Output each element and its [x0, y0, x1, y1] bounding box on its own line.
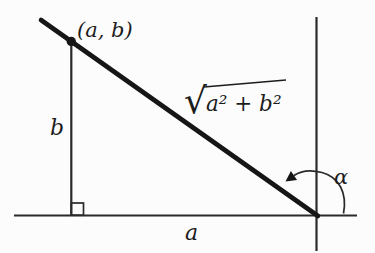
point-label: (a, b): [77, 18, 133, 42]
point-dot: [67, 37, 76, 46]
triangle-diagram: (a, b) √ a² + b² b a α: [0, 0, 375, 253]
diagram-canvas: (a, b) √ a² + b² b a α: [0, 0, 375, 253]
radical-sign-label: √: [184, 80, 207, 121]
angle-alpha-label: α: [334, 165, 348, 189]
side-a-label: a: [185, 220, 198, 245]
hypotenuse-expression-label: a² + b²: [206, 91, 282, 116]
side-b-label: b: [50, 115, 64, 140]
